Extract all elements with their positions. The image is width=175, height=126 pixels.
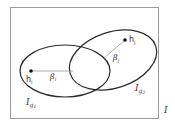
venn-diagram: hi hj βi βj Ig1 Ig2 I bbox=[0, 0, 175, 126]
label-i-g2: Ig2 bbox=[134, 83, 145, 95]
label-h-j: hj bbox=[129, 35, 135, 46]
label-h-i: hi bbox=[26, 75, 32, 85]
label-universe: I bbox=[163, 105, 168, 115]
label-beta-j: βj bbox=[112, 53, 120, 64]
label-i-g1: Ig1 bbox=[25, 97, 36, 109]
point-h-j bbox=[123, 38, 127, 42]
label-beta-i: βi bbox=[49, 72, 57, 82]
point-h-i bbox=[29, 69, 33, 73]
